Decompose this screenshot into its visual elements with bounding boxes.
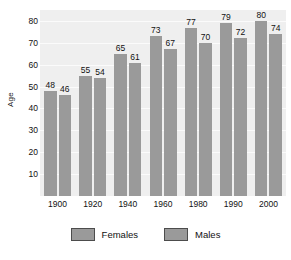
legend-label: Females <box>102 229 138 240</box>
bar-chart-figure: Age 1020304050607080 4846555465617367777… <box>0 0 291 260</box>
y-axis-tick-labels: 1020304050607080 <box>14 10 38 196</box>
y-axis-tick-label: 80 <box>14 16 38 25</box>
y-axis-tick-label: 70 <box>14 38 38 47</box>
bar <box>79 76 92 196</box>
x-axis-tick-label: 1980 <box>189 199 208 210</box>
chart-legend: FemalesMales <box>0 228 291 241</box>
bar <box>185 28 198 196</box>
x-axis-tick-label: 1990 <box>224 199 243 210</box>
y-axis-tick-label: 40 <box>14 104 38 113</box>
bar <box>220 23 233 196</box>
x-axis-tick-label: 1920 <box>83 199 102 210</box>
x-axis-tick-label: 1940 <box>118 199 137 210</box>
bar <box>199 43 212 196</box>
legend-swatch <box>164 228 188 241</box>
y-axis-tick-label: 20 <box>14 148 38 157</box>
bar <box>234 38 247 196</box>
bar <box>255 21 268 196</box>
bar <box>150 36 163 196</box>
bars-layer <box>40 10 286 196</box>
legend-label: Males <box>195 229 220 240</box>
bar <box>164 49 177 196</box>
bar <box>59 95 72 196</box>
bar <box>94 78 107 196</box>
legend-entry: Males <box>164 228 220 241</box>
y-axis-tick-label: 60 <box>14 60 38 69</box>
x-axis-tick-label: 1900 <box>48 199 67 210</box>
y-axis-tick-label: 50 <box>14 82 38 91</box>
bar <box>269 34 282 196</box>
y-axis-tick-label: 10 <box>14 170 38 179</box>
plot-area <box>40 10 286 196</box>
legend-entry: Females <box>71 228 138 241</box>
x-axis-tick-label: 2000 <box>259 199 278 210</box>
bar <box>44 91 57 196</box>
x-axis-tick-labels: 1900192019401960198019902000 <box>40 199 286 213</box>
legend-swatch <box>71 228 95 241</box>
bar <box>129 63 142 196</box>
y-axis-tick-label: 30 <box>14 126 38 135</box>
x-axis-tick-label: 1960 <box>154 199 173 210</box>
bar <box>114 54 127 196</box>
